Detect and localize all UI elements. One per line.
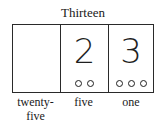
digit-five: 2 (61, 34, 108, 68)
diagram-title: Thirteen (0, 6, 163, 20)
counters-one (109, 80, 153, 87)
label-twenty-five-line2: five (12, 109, 59, 123)
place-column-twenty-five (13, 25, 60, 92)
label-twenty-five-line1: twenty- (12, 95, 59, 109)
digit-one: 3 (109, 34, 153, 68)
counter-circle-icon (75, 80, 82, 87)
counter-circle-icon (128, 80, 135, 87)
label-twenty-five: twenty- five (12, 95, 59, 123)
place-value-chart: 2 3 (12, 24, 154, 93)
counter-circle-icon (140, 80, 147, 87)
counter-circle-icon (87, 80, 94, 87)
label-one: one (108, 95, 154, 123)
counter-circle-icon (116, 80, 123, 87)
place-column-one: 3 (108, 25, 153, 92)
place-column-five: 2 (60, 25, 108, 92)
counters-five (61, 80, 108, 87)
place-labels: twenty- five five one (12, 95, 154, 123)
label-five: five (59, 95, 108, 123)
